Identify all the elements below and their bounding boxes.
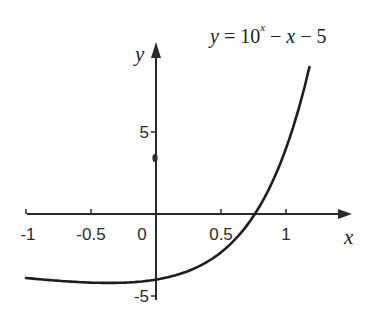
title-rest-a: − [265,25,286,47]
x-tick-label: -1 [20,225,35,244]
x-tick-label: 0.5 [209,225,233,244]
y-tick-label: -5 [134,287,149,306]
x-tick-label: -0.5 [76,225,105,244]
axis-mark-dot [152,154,157,162]
y-axis-label: y [133,42,145,66]
chart-title: y = 10x − x − 5 [208,21,327,48]
chart: -1-0.500.51 5-5 x y y = 10x − x − 5 [0,0,371,322]
x-tick-label: 0 [137,225,146,244]
title-rest-x: x [285,25,295,47]
y-tick-label: 5 [140,123,149,142]
title-eq: = 10 [219,25,260,47]
x-axis-label: x [343,225,354,249]
x-tick-label: 1 [281,225,290,244]
x-axis-arrow-icon [338,209,352,219]
y-axis-arrow-icon [151,42,161,58]
title-rest-b: − 5 [295,25,326,47]
function-curve [26,67,309,283]
title-lhs: y [208,25,219,48]
